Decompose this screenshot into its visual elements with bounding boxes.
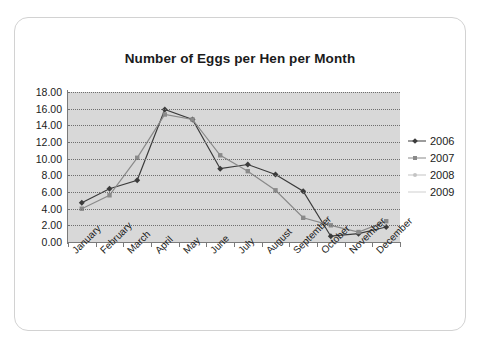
data-point-2007 bbox=[107, 193, 111, 197]
gridline bbox=[68, 92, 400, 93]
legend-marker-line-icon bbox=[408, 187, 426, 197]
gridline bbox=[68, 159, 400, 160]
x-tick bbox=[234, 242, 235, 247]
data-point-2007 bbox=[301, 216, 305, 220]
gridline bbox=[68, 142, 400, 143]
y-axis-labels: 18.0016.0014.0012.0010.008.006.004.002.0… bbox=[14, 0, 62, 350]
gridline bbox=[68, 175, 400, 176]
y-tick-label: 14.00 bbox=[16, 119, 62, 131]
series-lines bbox=[68, 92, 400, 242]
x-tick bbox=[151, 242, 152, 247]
y-tick-label: 6.00 bbox=[16, 186, 62, 198]
y-tick-label: 4.00 bbox=[16, 203, 62, 215]
data-point-2007 bbox=[190, 117, 194, 121]
x-tick bbox=[262, 242, 263, 247]
x-tick bbox=[179, 242, 180, 247]
series-line-2006 bbox=[82, 110, 386, 237]
legend-item-2006[interactable]: 2006 bbox=[408, 132, 468, 149]
y-tick-label: 18.00 bbox=[16, 86, 62, 98]
data-point-2006 bbox=[217, 166, 223, 172]
gridline bbox=[68, 125, 400, 126]
y-tick-label: 10.00 bbox=[16, 153, 62, 165]
x-tick bbox=[400, 242, 401, 247]
y-axis-line bbox=[67, 90, 68, 244]
data-point-2006 bbox=[245, 162, 251, 168]
legend-label: 2006 bbox=[426, 135, 454, 147]
data-point-2007 bbox=[218, 153, 222, 157]
legend-marker-square-icon bbox=[408, 153, 426, 163]
data-point-2007 bbox=[163, 112, 167, 116]
legend-label: 2008 bbox=[426, 169, 454, 181]
y-tick-label: 12.00 bbox=[16, 136, 62, 148]
plot-area bbox=[68, 92, 400, 242]
gridline bbox=[68, 225, 400, 226]
data-point-2006 bbox=[134, 177, 140, 183]
y-tick-label: 0.00 bbox=[16, 236, 62, 248]
legend-item-2009[interactable]: 2009 bbox=[408, 183, 468, 200]
series-line-2007 bbox=[82, 115, 386, 233]
x-tick bbox=[206, 242, 207, 247]
data-point-2007 bbox=[246, 169, 250, 173]
x-tick bbox=[123, 242, 124, 247]
x-tick bbox=[68, 242, 69, 247]
y-tick-label: 2.00 bbox=[16, 219, 62, 231]
x-tick bbox=[345, 242, 346, 247]
chart-title: Number of Eggs per Hen per Month bbox=[15, 51, 465, 66]
chart-legend: 2006200720082009 bbox=[408, 132, 468, 200]
x-tick bbox=[96, 242, 97, 247]
y-tick-label: 16.00 bbox=[16, 103, 62, 115]
legend-label: 2009 bbox=[426, 186, 454, 198]
data-point-2006 bbox=[79, 200, 85, 206]
x-tick bbox=[317, 242, 318, 247]
gridline bbox=[68, 109, 400, 110]
x-tick bbox=[289, 242, 290, 247]
legend-label: 2007 bbox=[426, 152, 454, 164]
data-point-2006 bbox=[107, 186, 113, 192]
legend-marker-dot-icon bbox=[408, 170, 426, 180]
gridline bbox=[68, 209, 400, 210]
legend-marker-diamond-icon bbox=[408, 136, 426, 146]
gridline bbox=[68, 192, 400, 193]
legend-item-2007[interactable]: 2007 bbox=[408, 149, 468, 166]
legend-item-2008[interactable]: 2008 bbox=[408, 166, 468, 183]
x-tick bbox=[372, 242, 373, 247]
y-tick-label: 8.00 bbox=[16, 169, 62, 181]
